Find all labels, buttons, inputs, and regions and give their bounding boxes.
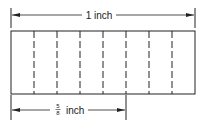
top-dimension: 1 inch [11, 8, 195, 28]
top-dimension-label: 1 inch [86, 10, 113, 21]
bottom-dimension: 5 8 inch [11, 95, 126, 120]
fraction-numerator: 5 [56, 103, 60, 109]
fraction-strip-diagram: 1 inch 5 8 inch [0, 0, 206, 128]
fraction-denominator: 8 [56, 110, 60, 116]
top-arrow-left [12, 13, 20, 17]
bottom-arrow-right [117, 108, 125, 112]
bottom-arrow-left [12, 108, 20, 112]
bottom-unit-label: inch [66, 105, 84, 116]
top-arrow-right [186, 13, 194, 17]
strip-dividers [34, 31, 172, 94]
strip [11, 31, 195, 94]
